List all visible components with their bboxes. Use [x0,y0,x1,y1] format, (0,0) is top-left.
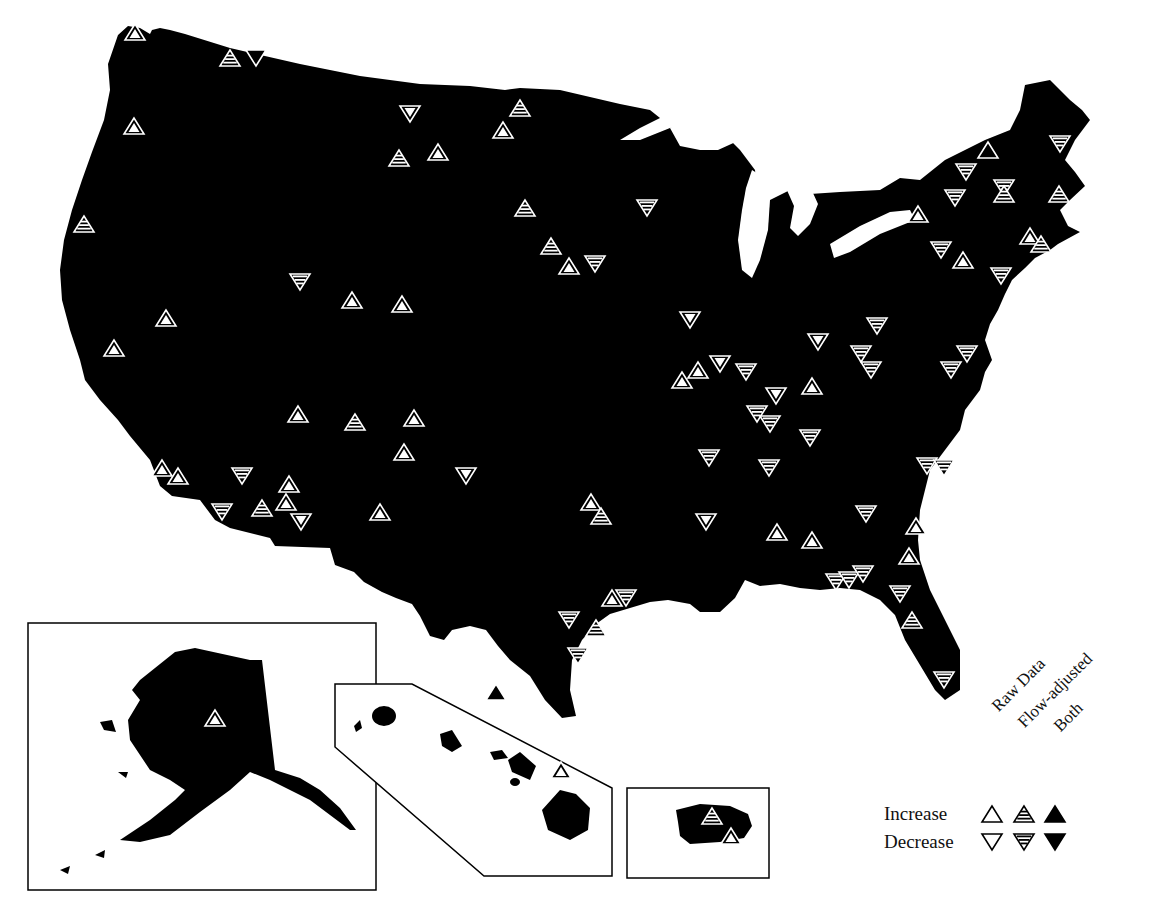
decrease-raw-marker-icon [982,834,1002,850]
legend-label-increase: Increase [884,803,947,825]
legend-symbols [982,806,1065,850]
increase-raw-marker-icon [982,806,1002,822]
streamflow-trend-map [0,0,1149,909]
decrease-both-marker-icon [1045,834,1065,850]
increase-both-marker-icon [1045,806,1065,822]
decrease-flow-marker-icon [1014,834,1034,850]
increase-both-marker-icon [486,684,506,700]
legend-label-decrease: Decrease [884,831,954,853]
lake-superior [670,104,790,150]
decrease-flow-marker-icon [934,460,954,476]
increase-flow-marker-icon [1014,806,1034,822]
